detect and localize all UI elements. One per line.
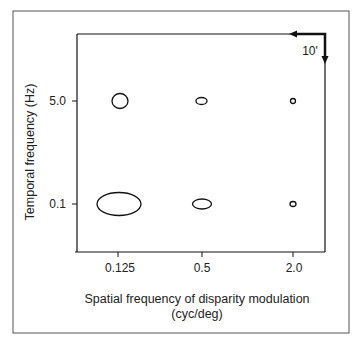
figure: 5.0 0.1 0.125 0.5 2.0 Temporal frequency… [0,0,361,347]
ellipse-0-5-0-1hz [193,199,212,209]
y-ticks [72,101,77,204]
arrow-left-icon [289,31,297,38]
ytick-label-0-1: 0.1 [49,197,66,211]
arrow-down-icon [322,56,329,64]
ellipse-2-0-1hz [290,202,296,207]
ellipse-0-5-5hz [196,98,207,105]
ytick-label-5: 5.0 [49,94,66,108]
data-ellipses [97,94,296,216]
x-ticks [118,252,293,257]
scale-bar-label: 10' [302,44,318,58]
xtick-label-0-125: 0.125 [105,261,135,275]
xtick-label-2: 2.0 [286,261,303,275]
x-axis-label-line2: (cyc/deg) [171,307,222,321]
plot-box [75,34,325,252]
xtick-label-0-5: 0.5 [194,261,211,275]
y-axis-label: Temporal frequency (Hz) [23,84,37,221]
outer-frame [13,11,349,333]
x-axis-label-line1: Spatial frequency of disparity modulatio… [84,292,309,306]
ellipse-0-125-0-1hz [97,193,141,216]
ellipse-2-5hz [291,99,296,104]
ellipse-0-125-5hz [112,94,128,109]
